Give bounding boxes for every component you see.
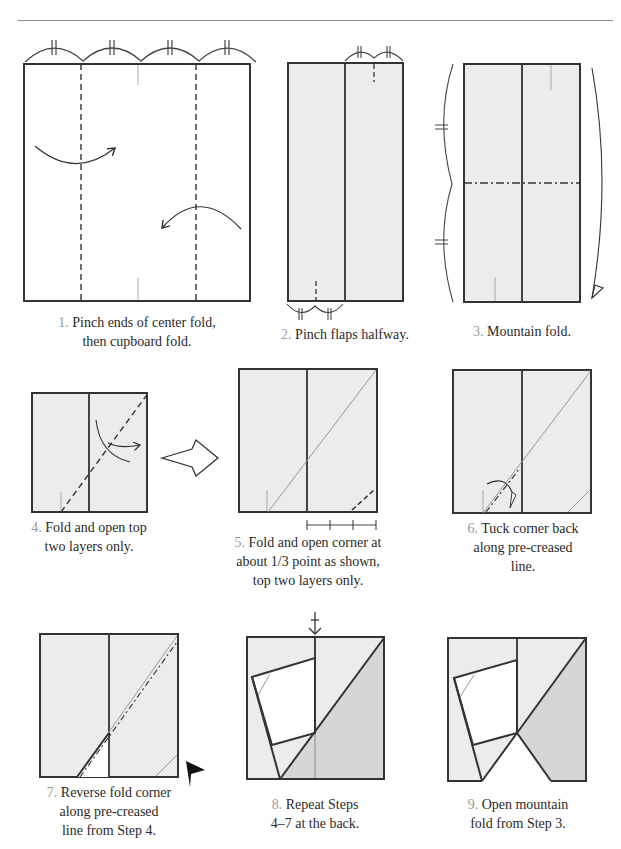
step-2-diagram: [287, 46, 403, 320]
hollow-right-arrow-icon: [162, 440, 218, 476]
step-number: 6.: [467, 521, 478, 536]
step-number: 5.: [235, 535, 246, 550]
equal-marks-icon: [435, 64, 453, 302]
step-5-diagram: [239, 369, 377, 530]
step-number: 1.: [58, 315, 69, 330]
step-7-diagram: [40, 634, 178, 777]
step-8-diagram: [247, 612, 384, 779]
step-2-caption: 2. Pinch flaps halfway.: [265, 325, 425, 344]
thirds-scale-icon: [307, 520, 376, 530]
step-number: 4.: [31, 520, 42, 535]
step-number: 9.: [468, 797, 479, 812]
step-7-caption: 7. Reverse fold corner along pre-creased…: [34, 783, 184, 840]
step-9-caption: 9. Open mountain fold from Step 3.: [443, 795, 593, 833]
step-1-caption: 1. Pinch ends of center fold, then cupbo…: [24, 313, 250, 351]
equal-marks-icon: [25, 40, 256, 62]
step-6-caption: 6. Tuck corner back along pre-creased li…: [445, 519, 601, 576]
step-number: 7.: [47, 785, 58, 800]
step-9-diagram: [448, 638, 586, 781]
reverse-fold-arrowhead-icon: [186, 761, 205, 787]
step-4-diagram: [32, 393, 147, 512]
step-5-caption: 5. Fold and open corner at about 1/3 poi…: [218, 533, 398, 590]
step-4-caption: 4. Fold and open top two layers only.: [14, 518, 164, 556]
step-3-diagram: [435, 64, 603, 302]
mountain-fold-arrow-icon: [592, 68, 602, 298]
step-6-diagram: [453, 370, 591, 513]
push-arrow-icon: [309, 612, 321, 634]
step-1-diagram: [24, 40, 256, 301]
diagram-canvas: [0, 0, 621, 849]
step-8-caption: 8. Repeat Steps 4–7 at the back.: [240, 795, 390, 833]
step-number: 2.: [281, 327, 292, 342]
step-number: 8.: [272, 797, 283, 812]
step-number: 3.: [473, 324, 484, 339]
step-3-caption: 3. Mountain fold.: [452, 322, 592, 341]
